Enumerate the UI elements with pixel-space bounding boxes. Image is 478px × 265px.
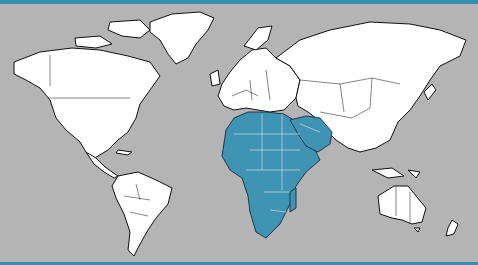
greenland [150,12,214,64]
scandinavia [244,26,272,50]
world-map [0,0,478,265]
central-america [86,152,118,178]
new-zealand [446,220,458,236]
south-america [112,172,172,256]
madagascar-highlight [290,188,296,212]
arctic-islands-2 [75,36,112,48]
british-isles [210,70,220,86]
caribbean-islands [116,150,132,155]
tasmania [414,228,420,232]
map-canvas [0,0,478,265]
australia [378,186,426,224]
north-america [14,48,160,160]
southeast-asia-islands [372,168,420,178]
arctic-islands [108,20,150,38]
